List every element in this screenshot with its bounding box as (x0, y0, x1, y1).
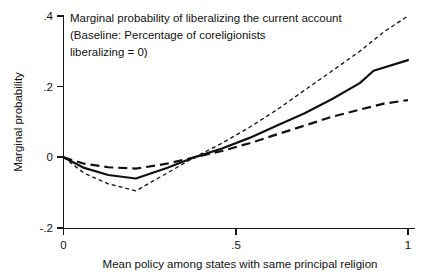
y-tick-label-1: .2 (43, 81, 53, 93)
chart-title-line-1: Marginal probability of liberalizing the… (70, 12, 342, 24)
x-axis-title: Mean policy among states with same princ… (103, 258, 378, 270)
y-tick-label-2: 0 (47, 151, 53, 163)
series-group (64, 16, 409, 191)
series-point-estimate (64, 60, 409, 178)
chart-title-line-3: liberalizing = 0) (70, 46, 148, 58)
x-tick-labels: 0 .5 1 (60, 239, 411, 251)
y-tick-label-3: -.2 (40, 222, 53, 234)
chart-figure: .4 .2 0 -.2 0 .5 1 Marginal probability … (0, 0, 430, 276)
chart-title-line-2: (Baseline: Percentage of coreligionists (70, 29, 266, 41)
x-tick-label-1: .5 (231, 239, 241, 251)
series-lower-confidence-bound (64, 100, 409, 169)
x-tick-marks (64, 229, 409, 236)
y-axis-title: Marginal probability (12, 72, 24, 172)
y-tick-label-0: .4 (43, 10, 53, 22)
chart-title: Marginal probability of liberalizing the… (70, 12, 342, 58)
x-tick-label-0: 0 (60, 239, 66, 251)
series-upper-confidence-bound (64, 16, 409, 191)
x-tick-label-2: 1 (405, 239, 411, 251)
y-tick-labels: .4 .2 0 -.2 (40, 10, 54, 234)
y-tick-marks (57, 16, 64, 228)
marginal-probability-line-chart: .4 .2 0 -.2 0 .5 1 Marginal probability … (0, 0, 430, 276)
